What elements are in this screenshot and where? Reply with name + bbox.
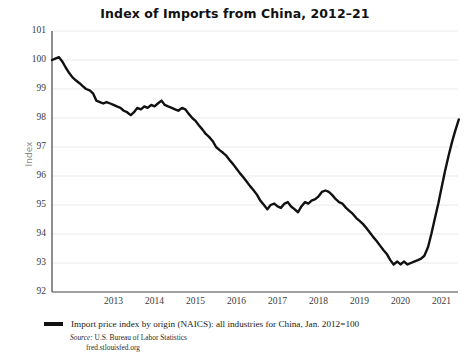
legend-line-swatch — [44, 322, 63, 326]
source-organization: U.S. Bureau of Labor Statistics — [95, 333, 187, 342]
source-note: Source: U.S. Bureau of Labor Statistics … — [70, 333, 187, 353]
source-prefix: Source: — [70, 333, 93, 342]
x-tick-label: 2015 — [176, 296, 216, 306]
y-tick-label: 98 — [20, 112, 46, 122]
y-tick-label: 99 — [20, 83, 46, 93]
y-tick-label: 93 — [20, 257, 46, 267]
y-tick-label: 101 — [20, 25, 46, 35]
x-tick-label: 2019 — [340, 296, 380, 306]
x-tick-label: 2021 — [422, 296, 462, 306]
chart-legend: Import price index by origin (NAICS): al… — [44, 319, 359, 329]
chart-container: Index of Imports from China, 2012–21 Ind… — [0, 0, 470, 354]
x-tick-label: 2017 — [258, 296, 298, 306]
y-tick-label: 94 — [20, 228, 46, 238]
y-tick-label: 96 — [20, 170, 46, 180]
x-tick-label: 2016 — [217, 296, 257, 306]
legend-label: Import price index by origin (NAICS): al… — [71, 319, 359, 329]
data-series-line — [52, 57, 459, 264]
y-tick-label: 97 — [20, 141, 46, 151]
y-tick-label: 95 — [20, 199, 46, 209]
gridlines — [52, 31, 458, 263]
y-tick-label: 92 — [20, 286, 46, 296]
y-tick-label: 100 — [20, 54, 46, 64]
x-tick-label: 2020 — [381, 296, 421, 306]
x-tick-label: 2014 — [135, 296, 175, 306]
x-tick-label: 2013 — [94, 296, 134, 306]
source-url: fred.stlouisfed.org — [86, 343, 187, 353]
x-tick-label: 2018 — [299, 296, 339, 306]
source-attribution: Source: U.S. Bureau of Labor Statistics — [70, 333, 187, 343]
